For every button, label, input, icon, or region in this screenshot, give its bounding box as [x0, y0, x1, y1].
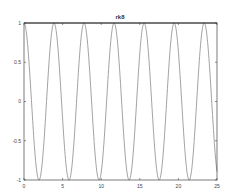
chart-title: rk8: [115, 14, 125, 20]
x-tick-label: 15: [137, 183, 143, 189]
data-line: [24, 23, 217, 180]
x-tick-label: 0: [23, 183, 26, 189]
y-tick-label: 0: [18, 98, 21, 104]
x-tick-label: 5: [61, 183, 64, 189]
x-tick-label: 25: [214, 183, 220, 189]
line-chart: rk8 0510152025-1-0.500.51: [0, 0, 229, 193]
y-tick-label: -0.5: [12, 138, 21, 144]
chart-figure: rk8 0510152025-1-0.500.51: [0, 0, 229, 193]
x-tick-label: 10: [98, 183, 104, 189]
y-tick-label: 0.5: [14, 59, 21, 65]
axis-ticks: 0510152025-1-0.500.51: [12, 20, 220, 189]
x-tick-label: 20: [176, 183, 182, 189]
plot-area-frame: [24, 23, 217, 180]
y-tick-label: -1: [17, 177, 22, 183]
y-tick-label: 1: [18, 20, 21, 26]
